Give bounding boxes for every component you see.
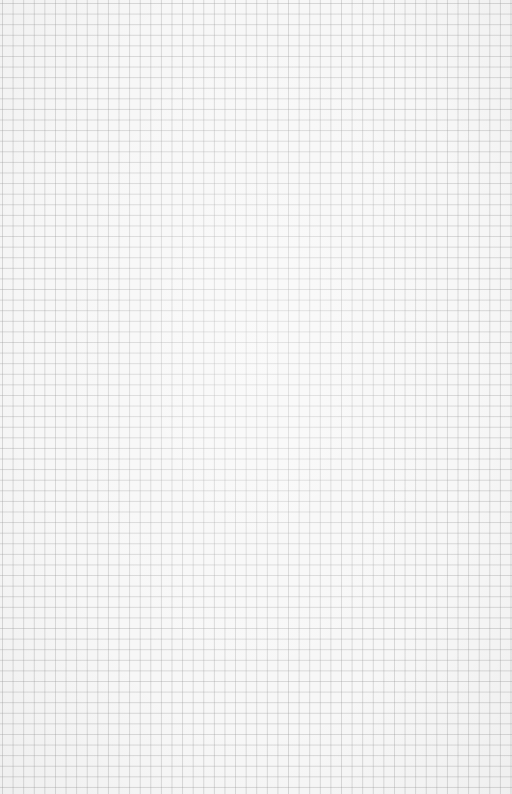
paper-shading <box>0 0 512 794</box>
graph-paper-sheet <box>0 0 512 794</box>
